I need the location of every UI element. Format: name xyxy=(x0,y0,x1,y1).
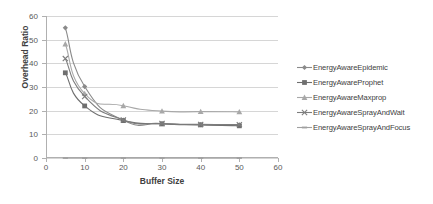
data-point xyxy=(82,157,87,159)
legend-item-4[interactable]: EnergyAwareSprayAndFocus xyxy=(296,120,433,135)
y-tick-label: 60 xyxy=(14,12,38,21)
y-tick-label: 0 xyxy=(14,154,38,163)
series-2 xyxy=(62,41,242,114)
x-tick xyxy=(278,158,279,162)
data-point xyxy=(237,157,242,159)
legend-item-0[interactable]: EnergyAwareEpidemic xyxy=(296,60,433,75)
legend-label: EnergyAwareMaxprop xyxy=(313,93,386,102)
data-point xyxy=(63,56,68,61)
series-layer xyxy=(46,16,278,158)
chart-legend: EnergyAwareEpidemicEnergyAwareProphetEne… xyxy=(296,60,433,135)
x-tick-label: 10 xyxy=(73,163,97,172)
x-tick-label: 30 xyxy=(150,163,174,172)
data-point xyxy=(63,157,68,159)
x-tick-label: 20 xyxy=(111,163,135,172)
data-point xyxy=(82,84,87,89)
data-point xyxy=(159,157,164,159)
triangle-marker-icon xyxy=(296,92,313,103)
y-tick-label: 20 xyxy=(14,106,38,115)
legend-label: EnergyAwareEpidemic xyxy=(313,63,388,72)
x-tick-label: 50 xyxy=(227,163,251,172)
series-line xyxy=(65,44,239,112)
x-tick-label: 60 xyxy=(266,163,290,172)
series-3 xyxy=(63,56,242,127)
y-tick-label: 10 xyxy=(14,130,38,139)
diamond-marker-icon xyxy=(296,62,313,73)
x-tick xyxy=(46,158,47,162)
data-point xyxy=(63,70,68,75)
square-marker-icon xyxy=(296,77,313,88)
legend-item-3[interactable]: EnergyAwareSprayAndWait xyxy=(296,105,433,120)
data-point xyxy=(198,157,203,159)
data-point xyxy=(121,157,126,159)
series-1 xyxy=(63,70,242,128)
x-tick-label: 40 xyxy=(189,163,213,172)
chart-container: Overhead Ratio 0102030405060 01020304050… xyxy=(0,0,433,204)
data-point xyxy=(82,104,87,109)
y-tick-label: 30 xyxy=(14,83,38,92)
dash-marker-icon xyxy=(296,122,313,133)
legend-label: EnergyAwareSprayAndFocus xyxy=(313,123,410,132)
legend-item-2[interactable]: EnergyAwareMaxprop xyxy=(296,90,433,105)
legend-item-1[interactable]: EnergyAwareProphet xyxy=(296,75,433,90)
data-point xyxy=(62,41,68,46)
series-line xyxy=(65,59,239,125)
legend-label: EnergyAwareSprayAndWait xyxy=(313,108,404,117)
legend-label: EnergyAwareProphet xyxy=(313,78,383,87)
x-tick-label: 0 xyxy=(34,163,58,172)
data-point xyxy=(63,25,68,30)
y-tick-label: 40 xyxy=(14,59,38,68)
y-tick-label: 50 xyxy=(14,35,38,44)
y-tick xyxy=(42,158,46,159)
cross-marker-icon xyxy=(296,107,313,118)
x-axis-title: Buffer Size xyxy=(46,176,278,186)
